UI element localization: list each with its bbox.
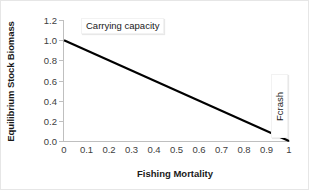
annotation-fcrash-label: Fcrash (274, 91, 285, 120)
y-tick-mark (59, 101, 63, 102)
annotation-carrying-capacity-label: Carrying capacity (86, 20, 159, 31)
y-tick-mark (59, 60, 63, 61)
y-tick-mark (59, 81, 63, 82)
y-tick-mark (59, 20, 63, 21)
y-tick-mark (59, 40, 63, 41)
annotation-carrying-capacity: Carrying capacity (81, 18, 164, 34)
x-axis-title: Fishing Mortality (59, 168, 291, 179)
y-tick-mark (59, 141, 63, 142)
chart-figure: Equilibrium Stock Biomass 0.00.20.40.60.… (0, 0, 309, 190)
y-tick-mark (59, 121, 63, 122)
equilibrium-biomass-line (64, 40, 289, 141)
annotation-fcrash: Fcrash (271, 74, 288, 138)
x-axis-title-text: Fishing Mortality (137, 168, 213, 179)
